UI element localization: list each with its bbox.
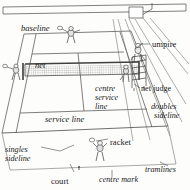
label-net: net <box>35 61 46 70</box>
perspective-guides <box>113 18 189 141</box>
tennis-court-diagram: baseline net umpire net judge doubles si… <box>0 0 190 190</box>
label-centre-service-line-line1: centre <box>95 85 115 93</box>
label-doubles-sideline-line1: doubles <box>151 103 176 111</box>
far-court-markings <box>2 34 176 170</box>
label-baseline: baseline <box>21 24 50 33</box>
label-centre-mark: centre mark <box>99 176 138 184</box>
label-racket: racket <box>110 138 131 147</box>
label-centre-service-line-line2: service <box>95 94 118 102</box>
label-service-line: service line <box>45 115 84 124</box>
label-net-judge: net judge <box>141 85 171 93</box>
line-judge <box>89 138 107 161</box>
player-far <box>57 26 80 43</box>
back-wall <box>3 3 186 18</box>
label-umpire: umpire <box>152 40 176 49</box>
player-near <box>3 64 20 80</box>
label-singles-sideline-line2: sideline <box>5 155 30 163</box>
label-court: court <box>51 177 69 186</box>
label-centre-service-line-line3: line <box>95 103 107 111</box>
label-singles-sideline-line1: singles <box>5 146 28 154</box>
label-tramlines: tramlines <box>145 166 176 174</box>
label-doubles-sideline-line2: sideline <box>154 112 179 120</box>
